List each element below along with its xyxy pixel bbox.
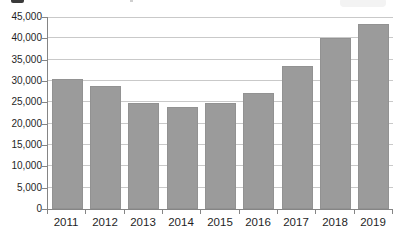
x-tick-label: 2014 <box>162 215 200 229</box>
x-axis-tick <box>47 210 48 214</box>
y-tick-label: 0 <box>0 203 42 215</box>
y-axis-tick <box>42 102 47 103</box>
plot-area <box>47 17 393 210</box>
bar-2011 <box>52 79 83 209</box>
x-tick-label: 2012 <box>86 215 124 229</box>
bar-2017 <box>282 66 313 209</box>
x-axis-tick <box>315 210 316 214</box>
y-tick-label: 15,000 <box>0 139 42 151</box>
y-axis-tick <box>42 17 47 18</box>
bar-2012 <box>90 86 121 209</box>
bar-2015 <box>205 103 236 209</box>
y-tick-label: 30,000 <box>0 75 42 87</box>
bar-2014 <box>167 107 198 209</box>
y-tick-label: 25,000 <box>0 96 42 108</box>
bar-2019 <box>358 24 389 209</box>
x-tick-label: 2015 <box>201 215 239 229</box>
x-axis-tick <box>239 210 240 214</box>
chart-screenshot: 05,00010,00015,00020,00025,00030,00035,0… <box>0 0 394 238</box>
x-axis-tick <box>277 210 278 214</box>
x-tick-label: 2019 <box>354 215 392 229</box>
y-tick-label: 20,000 <box>0 118 42 130</box>
x-tick-label: 2013 <box>124 215 162 229</box>
y-axis-tick <box>42 38 47 39</box>
y-tick-label: 35,000 <box>0 54 42 66</box>
y-axis-tick <box>42 81 47 82</box>
x-tick-label: 2018 <box>316 215 354 229</box>
cropped-text-fragment <box>11 0 24 3</box>
y-tick-label: 10,000 <box>0 160 42 172</box>
x-axis-tick <box>85 210 86 214</box>
x-axis-tick <box>354 210 355 214</box>
y-tick-label: 45,000 <box>0 11 42 23</box>
y-axis-tick <box>42 60 47 61</box>
x-axis-tick <box>392 210 393 214</box>
bar-2018 <box>320 38 351 209</box>
y-axis-tick <box>42 145 47 146</box>
y-axis-tick <box>42 124 47 125</box>
cropped-highlight-fragment <box>340 0 386 7</box>
bar-2013 <box>128 103 159 209</box>
x-axis-tick <box>124 210 125 214</box>
cropped-speck <box>130 0 133 2</box>
x-tick-label: 2011 <box>47 215 85 229</box>
y-tick-label: 40,000 <box>0 32 42 44</box>
bar-2016 <box>243 93 274 209</box>
x-axis-tick <box>162 210 163 214</box>
gridline <box>48 17 393 18</box>
x-tick-label: 2017 <box>277 215 315 229</box>
y-axis-tick <box>42 188 47 189</box>
y-tick-label: 5,000 <box>0 182 42 194</box>
x-tick-label: 2016 <box>239 215 277 229</box>
x-axis-tick <box>200 210 201 214</box>
y-axis-tick <box>42 166 47 167</box>
